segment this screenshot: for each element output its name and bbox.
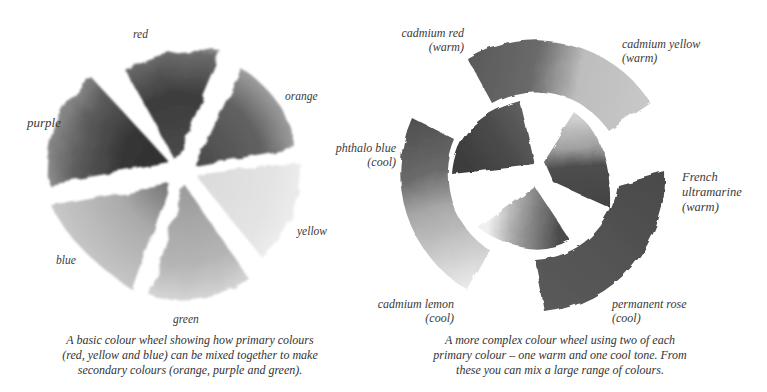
label-name: permanent rose: [612, 297, 687, 311]
inner-wedge-bottom: [478, 187, 570, 249]
label-red: red: [133, 27, 148, 41]
wedge-blue: [52, 184, 170, 290]
label-tone: (warm): [682, 200, 742, 215]
label-cadmium-yellow: cadmium yellow (warm): [622, 37, 700, 65]
caption-line: (red, yellow and blue) can be mixed toge…: [20, 348, 360, 363]
label-yellow: yellow: [297, 224, 327, 238]
label-cadmium-red: cadmium red (warm): [380, 26, 464, 54]
label-name: ultramarine: [682, 185, 742, 200]
complex-colour-wheel-panel: cadmium red (warm) cadmium yellow (warm)…: [380, 0, 767, 392]
complex-wheel-caption: A more complex colour wheel using two of…: [390, 333, 730, 378]
label-name: phthalo blue: [320, 141, 396, 155]
label-tone: (warm): [622, 51, 700, 65]
caption-line: these you can mix a large range of colou…: [390, 363, 730, 378]
label-green: green: [173, 312, 199, 326]
caption-line: primary colour – one warm and one cool t…: [390, 348, 730, 363]
label-cadmium-lemon: cadmium lemon (cool): [360, 297, 454, 325]
inner-wedge-upper-left: [452, 101, 535, 174]
label-name: French: [682, 170, 742, 185]
label-tone: (cool): [612, 311, 687, 325]
label-purple: purple: [27, 116, 61, 130]
wedge-orange: [194, 68, 296, 166]
label-phthalo-blue: phthalo blue (cool): [320, 141, 396, 169]
label-name: cadmium lemon: [360, 297, 454, 311]
basic-colour-wheel-panel: red orange yellow green blue purple A ba…: [0, 0, 380, 392]
basic-wheel-caption: A basic colour wheel showing how primary…: [20, 333, 360, 378]
label-blue: blue: [56, 253, 76, 267]
caption-line: secondary colours (orange, purple and gr…: [20, 363, 360, 378]
label-name: cadmium red: [380, 26, 464, 40]
caption-line: A more complex colour wheel using two of…: [390, 333, 730, 348]
label-permanent-rose: permanent rose (cool): [612, 297, 687, 325]
label-orange: orange: [285, 89, 318, 103]
label-tone: (warm): [380, 40, 464, 54]
label-name: cadmium yellow: [622, 37, 700, 51]
inner-wedge-upper-right: [544, 113, 610, 208]
caption-line: A basic colour wheel showing how primary…: [20, 333, 360, 348]
label-tone: (cool): [320, 155, 396, 169]
label-french-ultramarine: French ultramarine (warm): [682, 170, 742, 215]
label-tone: (cool): [360, 311, 454, 325]
